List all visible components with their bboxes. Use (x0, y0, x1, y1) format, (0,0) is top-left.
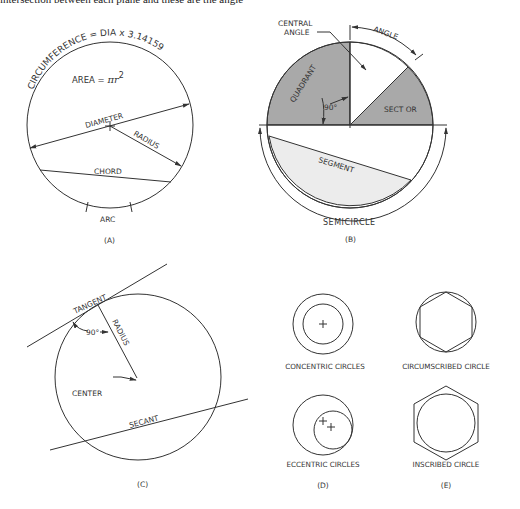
tangent-label: TANGENT (71, 292, 108, 316)
chord-label: CHORD (94, 167, 122, 176)
eccentric-label: ECCENTRIC CIRCLES (286, 460, 360, 469)
secant-label: SECANT (128, 413, 160, 430)
center-leader (113, 377, 136, 380)
radius-label-a: RADIUS (132, 129, 161, 151)
area-label: AREA = (72, 75, 107, 85)
panel-a-label: (A) (104, 236, 115, 245)
circumscribed-label: CIRCUMSCRIBED CIRCLE (402, 362, 490, 371)
semicircle-label: SEMICIRCLE (323, 218, 376, 227)
area-exponent: 2 (119, 71, 124, 80)
concentric-circles (293, 294, 353, 354)
panel-b-label: (B) (345, 235, 356, 244)
panel-e-label: (E) (441, 481, 452, 490)
radius-line (110, 126, 181, 166)
angle-label: ANGLE (372, 24, 399, 41)
arc-label: ARC (100, 215, 115, 224)
panel-a (27, 42, 193, 212)
radius-label-c: RADIUS (110, 318, 131, 347)
ninety-label-c: 90° (86, 328, 100, 337)
concentric-label: CONCENTRIC CIRCLES (285, 362, 365, 371)
circle-c (55, 294, 221, 460)
panel-e (414, 292, 478, 460)
panel-d (293, 294, 353, 455)
center-label: CENTER (72, 389, 102, 398)
panel-d-label: (D) (317, 481, 329, 490)
svg-text:AREA = πr2: AREA = πr2 (72, 71, 124, 85)
eccentric-circles (293, 395, 353, 455)
central-angle-label-2: ANGLE (284, 28, 310, 37)
panel-c-label: (C) (137, 480, 148, 489)
panel-c (27, 264, 248, 460)
sector-label: SECT OR (384, 105, 417, 114)
inscribed-circle (414, 386, 478, 460)
inscribed-label: INSCRIBED CIRCLE (413, 460, 480, 469)
circle-terminology-diagram: CIRCUMFERENCE = DIA x 3.14159 AREA = πr2… (0, 0, 520, 509)
ninety-label-b: 90° (324, 103, 338, 112)
circumscribed-circle (416, 292, 476, 352)
panel-b (259, 25, 447, 221)
central-angle-label-1: CENTRAL (278, 19, 313, 28)
